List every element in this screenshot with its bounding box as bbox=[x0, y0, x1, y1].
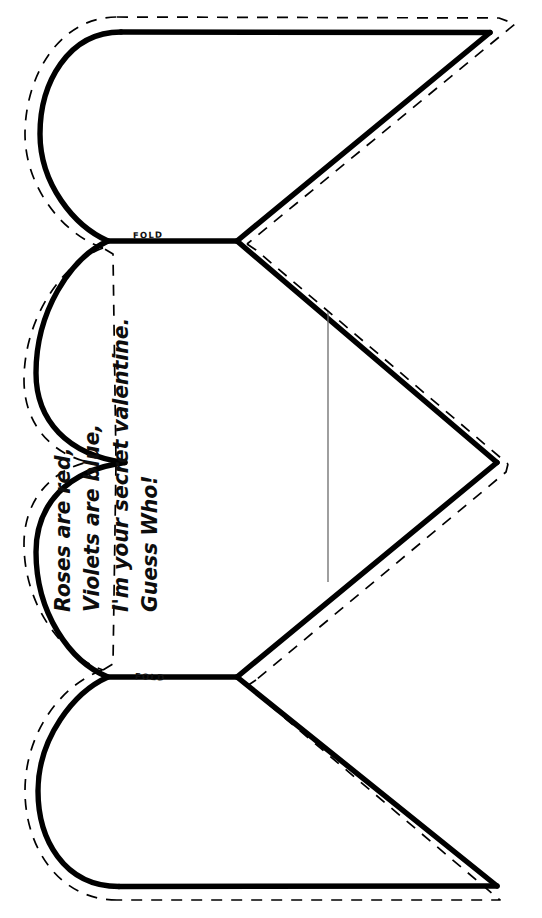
dashed-notch-upper bbox=[247, 244, 508, 464]
valentine-template-drawing bbox=[0, 0, 542, 918]
cut-lower-right-from-tip bbox=[237, 463, 497, 678]
dashed-top-lobe bbox=[117, 17, 515, 244]
dashed-right-tip bbox=[256, 464, 508, 680]
fold-label-top: FOLD bbox=[133, 230, 164, 241]
cut-bottom-edge bbox=[119, 886, 497, 887]
cut-top-edge bbox=[121, 32, 490, 33]
cut-upper-right-diagonal bbox=[237, 33, 490, 242]
dashed-middle-lobe-bulge bbox=[24, 248, 103, 670]
template-page: Roses are red, Violets are blue, I'm you… bbox=[0, 0, 542, 918]
cut-line-outline bbox=[36, 32, 497, 887]
cut-middle-lobe-upper bbox=[36, 241, 125, 463]
cut-middle-lobe-lower bbox=[36, 463, 125, 678]
fold-label-bottom: FOLD bbox=[135, 671, 166, 683]
dashed-notch-lower bbox=[117, 680, 500, 900]
cut-bottom-lobe-left bbox=[38, 677, 237, 887]
cut-lower-right-diagonal bbox=[237, 677, 497, 886]
cut-upper-right-to-tip bbox=[237, 241, 497, 463]
